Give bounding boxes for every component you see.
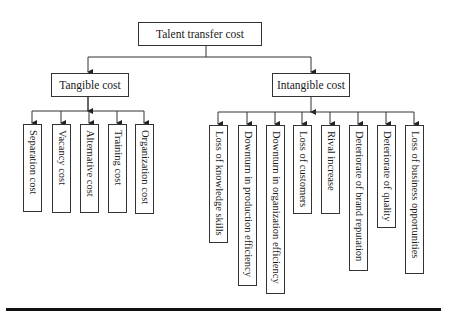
root-label: Talent transfer cost xyxy=(156,28,244,40)
intangible-cost-label: Intangible cost xyxy=(277,79,345,91)
leaf-deteriorate-quality: Deteriorate of quality xyxy=(377,125,396,228)
leaf-alternative-cost: Alternative cost xyxy=(80,124,99,213)
leaf-label: Vacancy cost xyxy=(56,130,67,185)
root-node: Talent transfer cost xyxy=(138,22,262,46)
leaf-training-cost: Training cost xyxy=(108,124,127,213)
leaf-label: Loss of business opportunities xyxy=(409,131,420,258)
tangible-cost-node: Tangible cost xyxy=(51,73,129,97)
leaf-label: Downturn in production efficiency xyxy=(242,131,253,277)
leaf-downturn-organization-efficiency: Downturn in organization efficiency xyxy=(266,125,285,294)
leaf-loss-of-business-opportunities: Loss of business opportunities xyxy=(405,125,424,274)
leaf-label: Separation cost xyxy=(27,130,38,194)
leaf-label: Alternative cost xyxy=(84,130,95,197)
leaf-label: Deteriorate of quality xyxy=(381,131,392,221)
leaf-loss-of-knowledge-skills: Loss of knowledge skills xyxy=(209,125,228,243)
leaf-vacancy-cost: Vacancy cost xyxy=(52,124,71,213)
leaf-rival-increase: Rival increase xyxy=(321,125,340,214)
leaf-downturn-production-efficiency: Downturn in production efficiency xyxy=(238,125,257,286)
bottom-rule xyxy=(6,308,441,311)
leaf-label: Deteriorate of brand reputation xyxy=(353,131,364,261)
leaf-organization-cost: Organization cost xyxy=(135,124,154,214)
leaf-label: Downturn in organization efficiency xyxy=(270,131,281,284)
leaf-label: Loss of knowledge skills xyxy=(213,131,224,236)
leaf-label: Training cost xyxy=(112,130,123,185)
leaf-label: Organization cost xyxy=(139,130,150,204)
tangible-cost-label: Tangible cost xyxy=(59,79,120,91)
leaf-separation-cost: Separation cost xyxy=(23,124,42,212)
leaf-deteriorate-brand-reputation: Deteriorate of brand reputation xyxy=(349,125,368,271)
intangible-cost-node: Intangible cost xyxy=(272,73,350,97)
leaf-label: Loss of customers xyxy=(297,131,308,207)
leaf-loss-of-customers: Loss of customers xyxy=(293,125,312,214)
leaf-label: Rival increase xyxy=(325,131,336,191)
